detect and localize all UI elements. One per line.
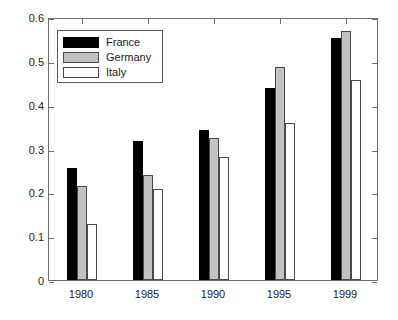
y-axis-tick — [372, 194, 377, 195]
legend-item: Italy — [63, 65, 157, 80]
y-axis-tick-label: 0.1 — [29, 232, 44, 243]
y-axis-tick-label: 0.4 — [29, 100, 44, 111]
bar-france-1985 — [133, 141, 143, 280]
legend-item: France — [63, 35, 157, 50]
legend-swatch-france — [63, 37, 99, 48]
legend-label-germany: Germany — [106, 52, 151, 63]
y-axis-tick — [49, 282, 54, 283]
bar-italy-1995 — [285, 123, 295, 280]
bar-italy-1980 — [87, 224, 97, 280]
y-axis-tick-label: 0.3 — [29, 144, 44, 155]
x-axis-tick — [82, 19, 83, 24]
y-axis-tick — [372, 151, 377, 152]
bar-germany-1990 — [209, 138, 219, 280]
bar-germany-1980 — [77, 186, 87, 280]
bar-germany-1985 — [143, 175, 153, 280]
legend-swatch-germany — [63, 52, 99, 63]
y-axis-tick — [49, 151, 54, 152]
bar-france-1995 — [265, 88, 275, 280]
x-axis-tick — [280, 19, 281, 24]
y-axis-tick — [49, 194, 54, 195]
y-axis-tick — [372, 107, 377, 108]
y-axis-tick-label: 0.2 — [29, 188, 44, 199]
bar-chart: 00.10.20.30.40.50.6 19801985199019951999… — [0, 0, 398, 320]
y-axis-tick-label: 0.6 — [29, 13, 44, 24]
x-axis-tick-label: 1980 — [69, 288, 93, 300]
legend-swatch-italy — [63, 67, 99, 78]
legend-item: Germany — [63, 50, 157, 65]
bar-italy-1990 — [219, 157, 229, 280]
bar-italy-1985 — [153, 189, 163, 280]
bar-germany-1999 — [341, 31, 351, 280]
y-axis-tick — [372, 63, 377, 64]
bar-france-1999 — [331, 38, 341, 280]
x-axis-tick-label: 1999 — [333, 288, 357, 300]
x-axis-tick-label: 1990 — [201, 288, 225, 300]
y-axis-tick — [49, 19, 54, 20]
legend-label-france: France — [106, 37, 140, 48]
y-axis-tick-label: 0 — [38, 276, 44, 287]
y-axis-tick — [49, 63, 54, 64]
y-axis-tick — [372, 19, 377, 20]
bar-france-1990 — [199, 130, 209, 280]
y-axis-tick — [49, 107, 54, 108]
y-axis-tick — [49, 238, 54, 239]
bar-italy-1999 — [351, 80, 361, 280]
legend: France Germany Italy — [57, 30, 163, 83]
x-axis-tick-label: 1995 — [267, 288, 291, 300]
x-axis-tick — [346, 19, 347, 24]
x-axis-tick-label: 1985 — [135, 288, 159, 300]
x-axis-tick — [148, 19, 149, 24]
y-axis-tick — [372, 282, 377, 283]
x-axis-tick — [214, 19, 215, 24]
bar-france-1980 — [67, 168, 77, 280]
legend-label-italy: Italy — [106, 67, 126, 78]
y-axis-tick-label: 0.5 — [29, 56, 44, 67]
y-axis-tick — [372, 238, 377, 239]
bar-germany-1995 — [275, 67, 285, 280]
